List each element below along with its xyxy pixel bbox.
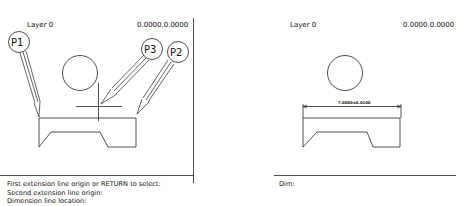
point-label-p3: P3	[144, 44, 156, 55]
dimension-text: 7.0000±0.0100	[338, 101, 371, 105]
command-line-3: Dimension line location:	[7, 197, 87, 206]
circle-entity[interactable]	[63, 56, 98, 91]
layer-label: Layer 0	[290, 21, 316, 29]
coordinate-display: 0.0000,0.0000	[137, 21, 188, 29]
layer-label: Layer 0	[27, 21, 53, 29]
pencil-p1-icon	[20, 51, 40, 117]
point-label-p1: P1	[11, 37, 23, 48]
right-viewport: Layer 0 0.0000,0.0000 7.0000±0.0100 Dim:	[228, 0, 456, 206]
coordinate-display: 0.0000,0.0000	[403, 21, 454, 29]
left-drawing-canvas[interactable]	[0, 0, 228, 206]
pencil-p3-icon	[101, 55, 149, 104]
part-outline[interactable]	[303, 118, 400, 147]
part-outline[interactable]	[39, 118, 136, 147]
point-label-p2: P2	[170, 47, 182, 58]
command-prompt[interactable]: Dim:	[279, 180, 295, 190]
pencil-p2-icon	[137, 60, 174, 114]
linear-dimension[interactable]	[303, 104, 401, 118]
circle-entity[interactable]	[328, 56, 363, 91]
left-viewport: Layer 0 0.0000,0.0000 P1 P3 P2 First ext…	[0, 0, 228, 206]
crosshair-cursor	[76, 83, 122, 121]
